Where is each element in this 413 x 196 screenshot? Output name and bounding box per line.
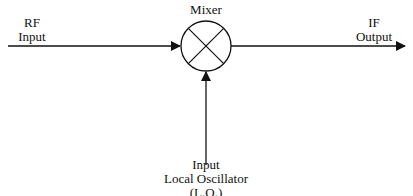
- mixer-label: Mixer: [181, 3, 231, 17]
- if-label-line2: Output: [352, 30, 396, 44]
- lo-label-line2: Local Oscillator: [146, 172, 266, 186]
- lo-label-line1: Input: [146, 158, 266, 172]
- lo-input-label: Input Local Oscillator (L.O.): [146, 158, 266, 196]
- rf-label-line1: RF: [14, 16, 50, 30]
- if-label-line1: IF: [352, 16, 396, 30]
- mixer-symbol-icon: [181, 21, 231, 71]
- lo-label-line3: (L.O.): [146, 186, 266, 196]
- rf-input-label: RF Input: [14, 16, 50, 44]
- rf-label-line2: Input: [14, 30, 50, 44]
- if-output-label: IF Output: [352, 16, 396, 44]
- mixer-label-text: Mixer: [190, 2, 222, 17]
